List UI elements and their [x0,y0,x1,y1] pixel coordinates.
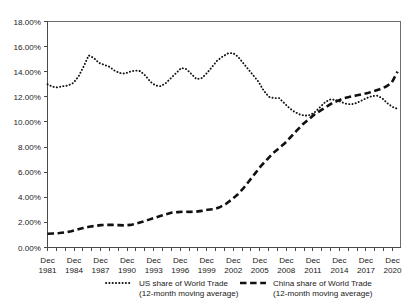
y-tick-label: 6.00% [18,168,41,177]
plot-axes [47,21,401,248]
legend-label-us-sublabel: (12-month moving average) [139,289,239,298]
y-tick-label: 10.00% [14,118,41,127]
legend-label-china-sublabel: (12-month moving average) [273,289,373,298]
x-axis: Dec1981Dec1984Dec1987Dec1990Dec1993Dec19… [38,248,402,275]
y-axis: 0.00%2.00%4.00%6.00%8.00%10.00%12.00%14.… [14,18,48,253]
x-tick-label-year: 2008 [277,266,296,275]
y-tick-label: 12.00% [14,93,41,102]
x-tick-label-month: Dec [200,256,214,265]
plot-frame [47,22,401,248]
x-tick-label-month: Dec [173,256,187,265]
y-tick-label: 8.00% [18,143,41,152]
x-tick-label-month: Dec [120,256,134,265]
y-tick-label: 0.00% [18,244,41,253]
series-line-china-share [48,72,398,234]
x-tick-label-year: 2020 [383,266,402,275]
x-tick-label-year: 2005 [251,266,270,275]
x-tick-label-month: Dec [253,256,267,265]
x-tick-label-year: 1999 [198,266,217,275]
x-tick-label-month: Dec [226,256,240,265]
x-tick-label-year: 2011 [304,266,322,275]
x-tick-label-month: Dec [40,256,54,265]
x-tick-label-month: Dec [306,256,320,265]
x-tick-label-year: 2014 [330,266,349,275]
data-series-group [48,53,398,234]
world-trade-share-line-chart: 0.00%2.00%4.00%6.00%8.00%10.00%12.00%14.… [0,0,417,307]
x-tick-label-year: 1984 [65,266,84,275]
x-tick-label-year: 1996 [171,266,190,275]
x-tick-label-year: 1993 [145,266,164,275]
legend-label-china: China share of World Trade [273,279,372,288]
x-tick-label-month: Dec [146,256,160,265]
series-line-us-share [48,53,398,116]
x-tick-label-year: 2017 [357,266,376,275]
chart-container: 0.00%2.00%4.00%6.00%8.00%10.00%12.00%14.… [0,0,417,307]
x-tick-label-month: Dec [332,256,346,265]
y-tick-label: 4.00% [18,193,41,202]
legend-label-us: US share of World Trade [139,279,228,288]
x-tick-label-month: Dec [279,256,293,265]
x-tick-label-month: Dec [93,256,107,265]
y-tick-label: 18.00% [14,18,41,27]
y-tick-label: 16.00% [14,43,41,52]
y-tick-label: 2.00% [18,218,41,227]
x-tick-label-month: Dec [67,256,81,265]
x-tick-label-year: 2002 [224,266,243,275]
x-tick-label-month: Dec [385,256,399,265]
y-tick-label: 14.00% [14,68,41,77]
x-tick-label-year: 1981 [38,266,57,275]
chart-legend: US share of World Trade (12-month moving… [106,279,373,298]
x-tick-label-year: 1987 [92,266,111,275]
x-tick-label-month: Dec [359,256,373,265]
x-tick-label-year: 1990 [118,266,137,275]
